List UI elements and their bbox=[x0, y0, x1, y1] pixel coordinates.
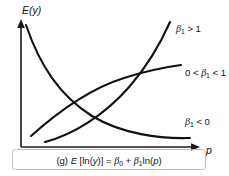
y-axis bbox=[17, 19, 25, 147]
legend-label-beta-gt-1: β1 > 1 bbox=[175, 23, 201, 35]
y-axis-label-text: E(y) bbox=[22, 4, 41, 16]
caption-prefix: (g) bbox=[56, 155, 68, 166]
y-axis-arrowhead bbox=[17, 19, 25, 28]
legend-label-beta-between-0-1: 0 < β1 < 1 bbox=[185, 67, 226, 79]
legend-label-beta-lt-0: β1 < 0 bbox=[184, 116, 210, 128]
figure-panel: E(y) p β1 > 1 0 < β1 < 1 β1 < 0 (g) E [l… bbox=[0, 0, 229, 176]
chart-canvas: E(y) p β1 > 1 0 < β1 < 1 β1 < 0 (g) E [l… bbox=[0, 0, 229, 176]
x-axis-label: p bbox=[205, 144, 212, 156]
curve-beta-between-0-1 bbox=[31, 65, 181, 136]
curve-beta-lt-0 bbox=[26, 25, 190, 138]
y-axis-label: E(y) bbox=[22, 4, 41, 16]
figure-caption: (g) E [ln(y)] = β0 + β1ln(p) bbox=[56, 155, 161, 167]
x-axis-label-text: p bbox=[205, 144, 212, 156]
